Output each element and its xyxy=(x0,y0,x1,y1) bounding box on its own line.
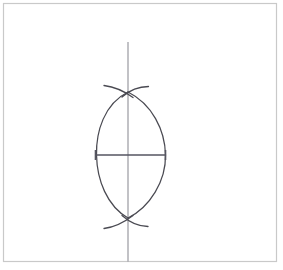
paper-background xyxy=(0,0,283,270)
construction-figure xyxy=(0,0,283,270)
drawing-canvas xyxy=(0,0,283,270)
